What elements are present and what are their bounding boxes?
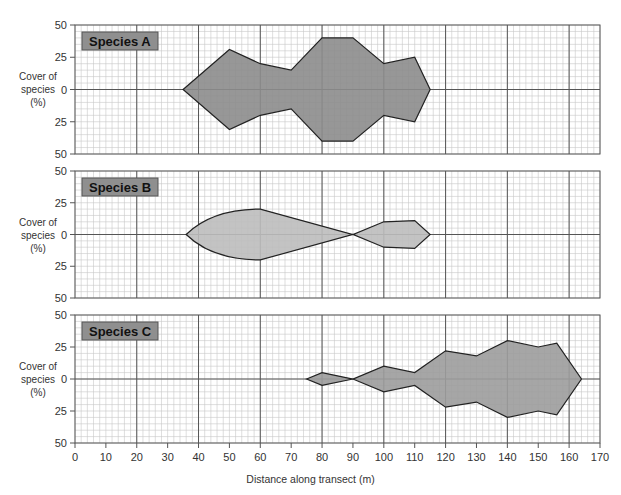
x-tick-label: 140	[498, 451, 516, 463]
y-title-line2: species	[8, 83, 68, 96]
y-tick-label: 25	[55, 197, 67, 209]
y-title-line3: (%)	[8, 96, 68, 109]
y-tick-label: 25	[55, 51, 67, 63]
x-tick-label: 160	[560, 451, 578, 463]
x-tick-label: 40	[192, 451, 204, 463]
panel-species-a: 502502550Species A	[55, 19, 600, 160]
species-label: Species B	[89, 180, 151, 195]
y-tick-label: 50	[55, 19, 67, 31]
y-title-line3: (%)	[8, 242, 68, 255]
y-tick-label: 50	[55, 292, 67, 304]
kite-shape	[186, 209, 430, 260]
x-tick-label: 30	[162, 451, 174, 463]
x-tick-label: 20	[131, 451, 143, 463]
y-axis-title-a: Cover of species (%)	[8, 70, 68, 109]
panel-species-c: 502502550Species C	[55, 309, 600, 449]
x-tick-label: 120	[436, 451, 454, 463]
y-tick-label: 25	[55, 341, 67, 353]
x-tick-label: 170	[591, 451, 609, 463]
kite-diagram-chart: 502502550Species A502502550Species B5025…	[0, 0, 621, 495]
x-tick-label: 90	[347, 451, 359, 463]
species-label: Species C	[89, 324, 152, 339]
y-title-line2: species	[8, 229, 68, 242]
species-label: Species A	[89, 34, 151, 49]
y-tick-label: 25	[55, 260, 67, 272]
y-tick-label: 50	[55, 148, 67, 160]
y-tick-label: 50	[55, 165, 67, 177]
x-tick-label: 70	[285, 451, 297, 463]
kite-shape	[183, 38, 430, 141]
y-tick-label: 50	[55, 309, 67, 321]
x-tick-label: 10	[100, 451, 112, 463]
x-axis-title: Distance along transect (m)	[0, 473, 621, 485]
x-tick-label: 110	[406, 451, 424, 463]
y-title-line1: Cover of	[8, 216, 68, 229]
x-tick-label: 0	[72, 451, 78, 463]
kite-shape	[307, 341, 582, 418]
y-axis-title-b: Cover of species (%)	[8, 216, 68, 255]
y-title-line3: (%)	[8, 386, 68, 399]
y-axis-title-c: Cover of species (%)	[8, 360, 68, 399]
x-tick-label: 100	[375, 451, 393, 463]
y-tick-label: 50	[55, 437, 67, 449]
x-tick-label: 80	[316, 451, 328, 463]
y-tick-label: 25	[55, 405, 67, 417]
x-tick-label: 150	[529, 451, 547, 463]
x-tick-label: 60	[254, 451, 266, 463]
y-title-line1: Cover of	[8, 70, 68, 83]
y-tick-label: 25	[55, 116, 67, 128]
panel-species-b: 502502550Species B	[55, 165, 600, 304]
x-tick-label: 50	[223, 451, 235, 463]
y-title-line1: Cover of	[8, 360, 68, 373]
x-tick-label: 130	[467, 451, 485, 463]
y-title-line2: species	[8, 373, 68, 386]
